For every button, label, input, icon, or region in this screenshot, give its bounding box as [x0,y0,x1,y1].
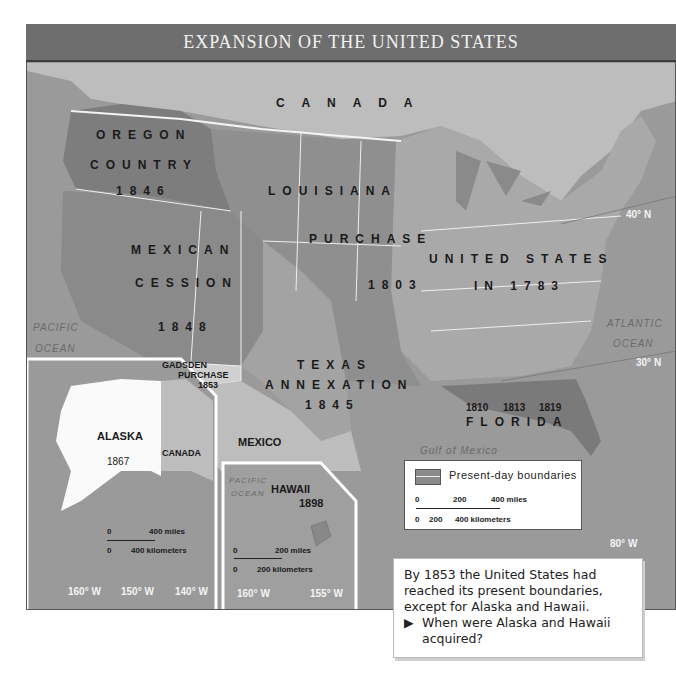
label-alaska: ALASKA [97,430,143,442]
label-canada: C A N A D A [276,96,419,110]
label-mexico: MEXICO [238,436,281,448]
legend-km-400: 400 kilometers [455,515,511,524]
alaska-scale-0: 0 [107,527,111,536]
label-us-2: IN 1783 [474,279,565,293]
label-mexican-2: CESSION [135,276,238,290]
label-gadsden-year: 1853 [198,380,218,390]
label-gadsden-2: PURCHASE [178,370,229,380]
hawaii-lon-160: 160° W [237,588,270,599]
legend-scale-bar [416,508,500,509]
label-oregon-2: COUNTRY [90,158,198,172]
hawaii-scale-km: 200 kilometers [257,565,313,574]
play-arrow-icon: ▶ [404,615,422,647]
legend-swatch [415,469,441,485]
map-title: EXPANSION OF THE UNITED STATES [183,32,519,53]
label-gulf: Gulf of Mexico [420,445,498,456]
hawaii-ocean-1: PACIFIC [229,476,267,485]
hawaii-scale-km-0: 0 [233,565,237,574]
alaska-scale-km: 400 kilometers [131,546,187,555]
label-florida: FLORIDA [466,415,568,429]
label-alaska-canada: CANADA [162,448,201,458]
legend-miles-0: 0 [415,495,419,504]
legend-miles-200: 200 [453,495,466,504]
label-pacific-1: PACIFIC [33,322,79,333]
alaska-lon-160: 160° W [68,586,101,597]
label-atlantic-2: OCEAN [613,338,654,349]
legend-km-0: 0 [415,515,419,524]
hawaii-lon-155: 155° W [310,588,343,599]
label-gadsden-1: GADSDEN [162,360,207,370]
label-texas-1: TEXAS [297,358,372,372]
caption-box: By 1853 the United States had reached it… [393,558,643,658]
alaska-scale-bar [107,540,155,541]
map-legend: Present-day boundaries 0 200 400 miles 0… [404,460,582,530]
label-alaska-year: 1867 [107,456,129,467]
map-title-bar: EXPANSION OF THE UNITED STATES [26,24,676,62]
label-pacific-2: OCEAN [35,343,76,354]
label-florida-1819: 1819 [539,402,561,413]
label-lon-80: 80° W [610,538,637,549]
alaska-scale-km-0: 0 [107,546,111,555]
alaska-scale-miles: 400 miles [149,527,185,536]
label-hawaii-year: 1898 [299,497,323,509]
legend-label: Present-day boundaries [449,469,577,481]
alaska-lon-140: 140° W [175,586,208,597]
label-mexican-1: MEXICAN [131,243,235,257]
hawaii-scale-miles: 200 miles [275,546,311,555]
label-florida-1813: 1813 [503,402,525,413]
label-louisiana-1: LOUISIANA [268,184,397,198]
label-mexican-year: 1848 [158,320,213,334]
caption-question-text: When were Alaska and Hawaii acquired? [422,615,632,647]
legend-miles-400: 400 miles [491,495,527,504]
label-atlantic-1: ATLANTIC [607,318,663,329]
label-oregon-year: 1846 [116,184,171,198]
caption-question: ▶ When were Alaska and Hawaii acquired? [404,615,632,647]
label-texas-2: ANNEXATION [265,378,413,392]
label-florida-1810: 1810 [466,402,488,413]
label-lat-40: 40° N [626,209,651,220]
label-oregon-1: OREGON [96,128,191,142]
alaska-lon-150: 150° W [121,586,154,597]
label-louisiana-year: 1803 [368,278,423,292]
legend-km-200: 200 [429,515,442,524]
label-hawaii: HAWAII [271,483,310,495]
hawaii-ocean-2: OCEAN [231,489,264,498]
caption-text: By 1853 the United States had reached it… [404,567,632,615]
label-lat-30: 30° N [636,357,661,368]
hawaii-scale-0: 0 [233,546,237,555]
label-us-1: UNITED STATES [429,252,614,266]
label-louisiana-2: PURCHASE [309,232,432,246]
hawaii-scale-bar [234,558,282,559]
label-texas-year: 1845 [305,398,360,412]
